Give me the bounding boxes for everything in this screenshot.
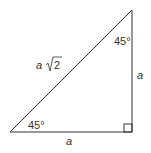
top-angle-label: 45° <box>114 36 131 47</box>
right-angle-marker <box>124 124 132 132</box>
bottom-left-angle-label: 45° <box>28 120 45 131</box>
vertical-leg-label: a <box>137 70 143 81</box>
triangle <box>10 10 132 132</box>
horizontal-leg-label: a <box>66 136 72 147</box>
hypotenuse-label: a <box>36 60 42 71</box>
triangle-figure <box>0 0 151 153</box>
hypotenuse-radical: 2 <box>54 60 60 71</box>
